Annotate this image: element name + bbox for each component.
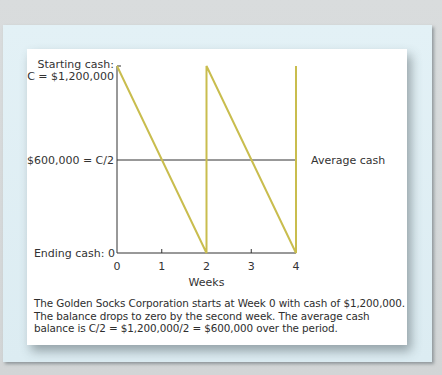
caption-line-3: balance is C/2 = $1,200,000/2 = $600,000… xyxy=(34,322,404,335)
figure-caption: The Golden Socks Corporation starts at W… xyxy=(34,297,404,335)
x-tick-label-0: 0 xyxy=(114,260,121,273)
figure-stage: 0 1 2 3 4 Weeks Starting cash: C = $1,20… xyxy=(0,0,442,375)
x-tick-label-1: 1 xyxy=(158,260,165,273)
x-tick-label-2: 2 xyxy=(203,260,210,273)
caption-line-2: The balance drops to zero by the second … xyxy=(34,310,404,323)
ending-cash-label: Ending cash: 0 xyxy=(34,247,115,260)
x-tick-label-3: 3 xyxy=(248,260,255,273)
half-cash-label: $600,000 = C/2 xyxy=(27,154,114,167)
caption-line-1: The Golden Socks Corporation starts at W… xyxy=(34,297,404,310)
average-cash-label: Average cash xyxy=(311,154,385,167)
x-tick-label-4: 4 xyxy=(293,260,300,273)
x-axis-label: Weeks xyxy=(189,276,225,289)
starting-cash-label-line2: C = $1,200,000 xyxy=(27,70,114,83)
